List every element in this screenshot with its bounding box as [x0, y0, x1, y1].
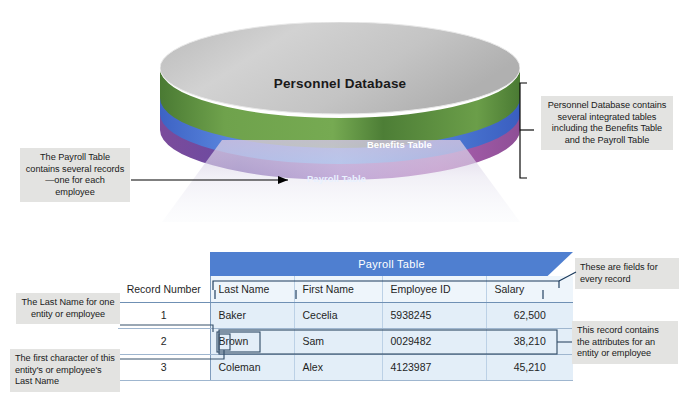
payroll-table-band-label: Payroll Table: [307, 173, 366, 184]
cell-employee-id: 5938245: [382, 302, 486, 328]
callout-last-name-entity: The Last Name for one entity or employee: [16, 293, 120, 324]
table-row: 3 Coleman Alex 4123987 45,210: [118, 354, 573, 380]
payroll-table-banner: Payroll Table: [210, 252, 573, 276]
database-cylinder: Personnel Database Benefits Table Payrol…: [160, 22, 520, 222]
payroll-grid: Record Number Last Name First Name Emplo…: [118, 276, 573, 381]
cylinder-svg: [160, 22, 520, 222]
cell-record-number: 3: [118, 354, 210, 380]
benefits-table-label: Benefits Table: [367, 139, 432, 150]
column-header-last-name: Last Name: [210, 276, 294, 302]
diagram-canvas: Personnel Database Benefits Table Payrol…: [0, 0, 682, 414]
cell-record-number: 1: [118, 302, 210, 328]
column-header-employee-id: Employee ID: [382, 276, 486, 302]
cell-last-name: Brown: [210, 328, 294, 354]
database-title: Personnel Database: [160, 76, 520, 91]
cell-last-name: Baker: [210, 302, 294, 328]
cell-salary: 45,210: [486, 354, 573, 380]
callout-payroll-records: The Payroll Table contains several recor…: [20, 148, 130, 202]
column-header-first-name: First Name: [294, 276, 382, 302]
bracket-cylinder-bands: [520, 83, 527, 178]
cell-first-name: Sam: [294, 328, 382, 354]
callout-first-character: The first character of this entity's or …: [10, 349, 120, 392]
table-row: 2 Brown Sam 0029482 38,210: [118, 328, 573, 354]
callout-record-attributes: This record contains the attributes for …: [572, 321, 678, 364]
callout-fields: These are fields for every record: [575, 258, 679, 289]
cell-first-name: Alex: [294, 354, 382, 380]
cylinder-top-surface: [160, 22, 520, 114]
table-row: 1 Baker Cecelia 5938245 62,500: [118, 302, 573, 328]
cell-record-number: 2: [118, 328, 210, 354]
cell-first-name: Cecelia: [294, 302, 382, 328]
column-header-salary: Salary: [486, 276, 573, 302]
cell-employee-id: 4123987: [382, 354, 486, 380]
callout-personnel-database: Personnel Database contains several inte…: [541, 96, 673, 150]
table-header-row: Record Number Last Name First Name Emplo…: [118, 276, 573, 302]
cell-salary: 38,210: [486, 328, 573, 354]
payroll-table: Payroll Table Record Number Last Name Fi…: [118, 252, 573, 387]
cell-employee-id: 0029482: [382, 328, 486, 354]
cell-salary: 62,500: [486, 302, 573, 328]
cell-last-name: Coleman: [210, 354, 294, 380]
column-header-record-number: Record Number: [118, 276, 210, 302]
